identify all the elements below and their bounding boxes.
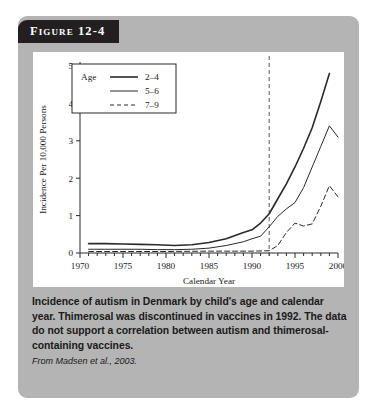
- legend-label-7-9: 7–9: [145, 100, 159, 110]
- x-axis-tick-label: 1970: [71, 261, 90, 271]
- figure-number-tab: Figure 12-4: [18, 20, 119, 43]
- x-axis-tick-label: 1995: [286, 261, 305, 271]
- figure-card: Figure 12-4 012345Incidence Per 10,000 P…: [18, 16, 359, 398]
- x-axis-tick-label: 1980: [157, 261, 176, 271]
- legend-label-5-6: 5–6: [145, 86, 159, 96]
- x-axis-title: Calendar Year: [183, 276, 235, 286]
- line-chart: 012345Incidence Per 10,000 Persons197019…: [33, 52, 344, 287]
- y-axis-tick-label: 3: [68, 136, 73, 146]
- figure-number-label: Figure 12-4: [30, 24, 105, 39]
- x-axis-tick-label: 1975: [114, 261, 133, 271]
- y-axis-tick-label: 2: [68, 174, 73, 184]
- series-line-5-6: [89, 126, 338, 250]
- y-axis-title: Incidence Per 10,000 Persons: [38, 105, 48, 214]
- chart-plot-panel: 012345Incidence Per 10,000 Persons197019…: [33, 52, 344, 287]
- figure-caption: Incidence of autism in Denmark by child'…: [32, 295, 347, 353]
- figure-caption-area: Incidence of autism in Denmark by child'…: [32, 295, 347, 368]
- legend-title: Age: [81, 72, 96, 82]
- y-axis-tick-label: 1: [68, 211, 73, 221]
- x-axis-tick-label: 2000: [329, 261, 344, 271]
- legend-label-2-4: 2–4: [145, 72, 159, 82]
- y-axis-tick-label: 0: [68, 248, 73, 258]
- figure-source: From Madsen et al., 2003.: [32, 355, 347, 368]
- x-axis-tick-label: 1990: [243, 261, 262, 271]
- x-axis-tick-label: 1985: [200, 261, 219, 271]
